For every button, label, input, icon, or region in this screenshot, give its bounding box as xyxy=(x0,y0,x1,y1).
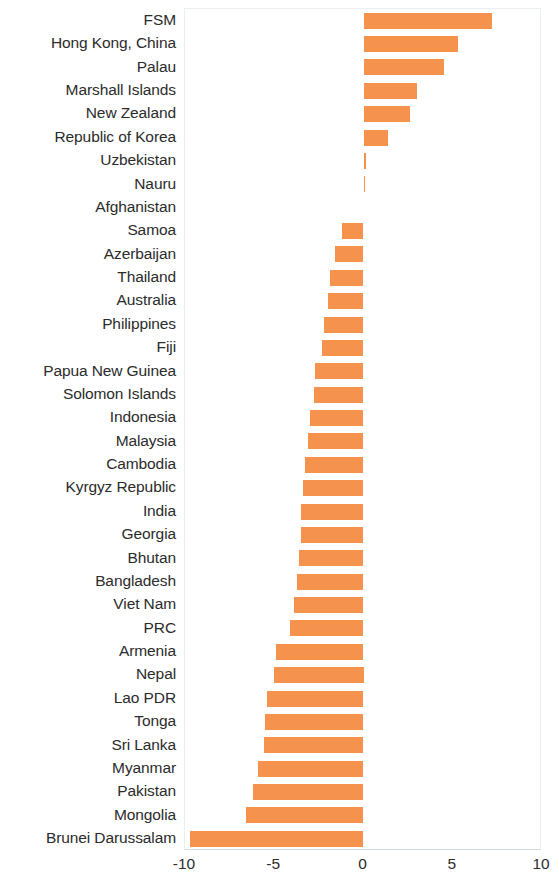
bar-row xyxy=(185,547,540,570)
category-label: Afghanistan xyxy=(95,199,176,215)
category-label: Mongolia xyxy=(114,807,176,823)
bar-row xyxy=(185,734,540,757)
bar xyxy=(301,527,363,543)
bar xyxy=(258,761,363,777)
category-label: Nepal xyxy=(136,666,176,682)
category-label: Solomon Islands xyxy=(63,386,176,402)
bar-row xyxy=(185,126,540,149)
category-label: Philippines xyxy=(102,316,176,332)
bar xyxy=(328,293,364,309)
category-label: Thailand xyxy=(117,269,176,285)
bar-row xyxy=(185,757,540,780)
bar-chart: FSMHong Kong, ChinaPalauMarshall Islands… xyxy=(0,0,559,885)
plot-area xyxy=(184,8,541,850)
category-label: Bangladesh xyxy=(95,573,176,589)
bar-row xyxy=(185,687,540,710)
category-label-row: Myanmar xyxy=(0,756,176,779)
category-label: PRC xyxy=(144,620,176,636)
bar xyxy=(314,387,364,403)
bar-row xyxy=(185,453,540,476)
category-label-row: Azerbaijan xyxy=(0,242,176,265)
category-label-row: Papua New Guinea xyxy=(0,359,176,382)
category-label: Papua New Guinea xyxy=(43,363,176,379)
category-label-row: Afghanistan xyxy=(0,195,176,218)
bar xyxy=(364,83,418,99)
bar-row xyxy=(185,336,540,359)
bar-row xyxy=(185,570,540,593)
bar xyxy=(305,457,364,473)
bar xyxy=(364,106,410,122)
category-label: Malaysia xyxy=(116,433,176,449)
category-label: Samoa xyxy=(127,222,176,238)
bar xyxy=(303,480,364,496)
category-label-row: Georgia xyxy=(0,522,176,545)
category-label-row: Sri Lanka xyxy=(0,733,176,756)
bar-row xyxy=(185,196,540,219)
category-label-row: Lao PDR xyxy=(0,686,176,709)
category-label: Cambodia xyxy=(106,456,176,472)
bar xyxy=(364,36,459,52)
category-label: FSM xyxy=(144,12,176,28)
bar xyxy=(253,784,364,800)
bar-row xyxy=(185,593,540,616)
bar xyxy=(294,597,364,613)
category-label-row: Malaysia xyxy=(0,429,176,452)
bar-row xyxy=(185,804,540,827)
x-axis-tick-label: -10 xyxy=(173,856,195,872)
bar xyxy=(265,714,363,730)
bar-row xyxy=(185,266,540,289)
bar-row xyxy=(185,640,540,663)
category-label: Sri Lanka xyxy=(111,737,176,753)
category-label: Fiji xyxy=(157,339,176,355)
category-label-row: PRC xyxy=(0,616,176,639)
category-label-row: India xyxy=(0,499,176,522)
category-label: Georgia xyxy=(122,526,176,542)
category-label: Viet Nam xyxy=(113,596,176,612)
bar-row xyxy=(185,617,540,640)
bar xyxy=(324,317,363,333)
bar xyxy=(364,130,389,146)
category-label-row: Australia xyxy=(0,289,176,312)
category-label: Myanmar xyxy=(112,760,176,776)
bar xyxy=(308,433,363,449)
bar-row xyxy=(185,219,540,242)
category-label-row: Armenia xyxy=(0,639,176,662)
bar xyxy=(190,831,363,847)
x-axis-tick-label: -5 xyxy=(266,856,280,872)
category-label: India xyxy=(143,503,176,519)
category-label-row: Indonesia xyxy=(0,405,176,428)
bar-row xyxy=(185,827,540,850)
category-label-row: Marshall Islands xyxy=(0,78,176,101)
bar xyxy=(342,223,363,239)
category-label: Armenia xyxy=(119,643,176,659)
category-label: Azerbaijan xyxy=(104,246,176,262)
bar xyxy=(364,176,365,192)
category-label-row: Solomon Islands xyxy=(0,382,176,405)
value-axis: -10-50510 xyxy=(184,852,541,882)
category-label-row: Tonga xyxy=(0,709,176,732)
x-axis-tick-label: 0 xyxy=(358,856,367,872)
category-axis-labels: FSMHong Kong, ChinaPalauMarshall Islands… xyxy=(0,8,176,850)
bar-row xyxy=(185,500,540,523)
category-label-row: Bhutan xyxy=(0,546,176,569)
category-label: Lao PDR xyxy=(114,690,176,706)
bar-row xyxy=(185,103,540,126)
category-label: Marshall Islands xyxy=(66,82,176,98)
category-label-row: Uzbekistan xyxy=(0,148,176,171)
x-axis-tick-label: 10 xyxy=(532,856,549,872)
bar-row xyxy=(185,710,540,733)
bar-row xyxy=(185,243,540,266)
category-label-row: Samoa xyxy=(0,218,176,241)
bar xyxy=(290,620,363,636)
bar xyxy=(246,807,364,823)
bar-row xyxy=(185,383,540,406)
bar-row xyxy=(185,477,540,500)
bar xyxy=(267,691,363,707)
bar xyxy=(276,644,363,660)
category-label: Nauru xyxy=(134,176,176,192)
category-label-row: FSM xyxy=(0,8,176,31)
bar xyxy=(310,410,364,426)
bar-row xyxy=(185,173,540,196)
bar-row xyxy=(185,290,540,313)
bar-row xyxy=(185,664,540,687)
